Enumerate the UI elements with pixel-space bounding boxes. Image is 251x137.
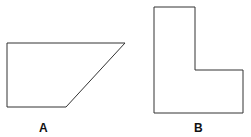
shape-a <box>7 43 125 107</box>
shape-b-label: B <box>194 121 203 135</box>
shape-b <box>154 7 243 113</box>
shape-a-label: A <box>39 121 48 135</box>
figure-canvas <box>0 0 251 137</box>
